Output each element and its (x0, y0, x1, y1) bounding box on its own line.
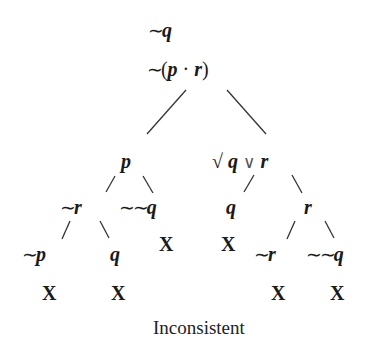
negation-symbol: ∼ (148, 19, 162, 41)
negation-symbol: ∼ (147, 58, 161, 80)
variable-r: r (74, 196, 82, 218)
variable-p: p (121, 150, 131, 172)
negation-symbol: ∼ (60, 196, 74, 218)
variable-r: r (194, 58, 202, 80)
edge-r-to-not-r (287, 221, 295, 239)
closed-marker-not-r-right: X (271, 283, 285, 303)
negation-symbol: ∼ (22, 243, 36, 265)
closed-marker-q-left: X (111, 283, 125, 303)
negation-symbol: ∼ (254, 243, 268, 265)
edge-root-to-q-or-r (227, 90, 266, 134)
open-paren: ( (161, 58, 168, 80)
double-negation-symbol: ∼∼ (306, 243, 334, 265)
variable-q: q (162, 19, 172, 41)
variable-p: p (168, 58, 178, 80)
node-not-r-left: ∼r (60, 197, 82, 217)
checkmark-icon: √ (212, 150, 223, 172)
node-r-right: r (304, 197, 312, 217)
variable-r: r (260, 150, 268, 172)
node-q-mid: q (226, 197, 236, 217)
tree-edges (0, 0, 386, 344)
close-paren: ) (202, 58, 209, 80)
premise-not-q: ∼q (148, 20, 172, 40)
edge-q-or-r-to-q (244, 175, 254, 192)
node-q-or-r: √ q ∨ r (212, 151, 268, 173)
edge-not-r-to-not-p (62, 221, 70, 239)
closed-marker-not-not-q-right: X (330, 283, 344, 303)
result-caption: Inconsistent (153, 318, 245, 338)
closed-marker-q-mid: X (221, 234, 235, 254)
variable-q: q (110, 243, 120, 265)
edge-p-to-not-not-q (143, 176, 153, 193)
closed-marker-not-p: X (42, 283, 56, 303)
edge-r-to-not-not-q (325, 221, 334, 238)
disjunction-symbol: ∨ (243, 153, 255, 172)
variable-p: p (36, 243, 46, 265)
node-not-not-q-left: ∼∼q (119, 197, 157, 217)
variable-q: q (228, 150, 238, 172)
node-q-left: q (110, 244, 120, 264)
variable-q: q (226, 196, 236, 218)
variable-r: r (304, 196, 312, 218)
node-not-not-q-right: ∼∼q (306, 244, 344, 264)
variable-r: r (268, 243, 276, 265)
premise-not-p-and-r: ∼(p · r) (147, 59, 209, 79)
edge-not-r-to-q (100, 221, 109, 238)
edge-root-to-p (147, 90, 186, 134)
variable-q: q (334, 243, 344, 265)
node-not-r-right: ∼r (254, 244, 276, 264)
closed-marker-not-not-q-left: X (159, 234, 173, 254)
edge-q-or-r-to-r (292, 175, 302, 193)
node-p: p (121, 151, 131, 171)
node-not-p: ∼p (22, 244, 46, 264)
edge-p-to-not-r (106, 176, 115, 192)
double-negation-symbol: ∼∼ (119, 196, 147, 218)
variable-q: q (147, 196, 157, 218)
conjunction-dot: · (183, 58, 190, 80)
